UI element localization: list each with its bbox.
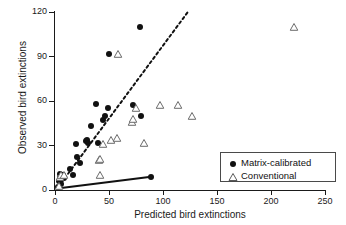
y-tick (49, 190, 54, 191)
data-point-matrix-calibrated (106, 51, 112, 57)
x-tick (55, 190, 56, 195)
y-tick (49, 12, 54, 13)
legend-box: Matrix-calibrated Conventional (220, 152, 336, 182)
data-point-conventional (96, 171, 105, 180)
legend-label-conventional: Conventional (241, 170, 296, 181)
data-point-conventional (289, 22, 298, 31)
data-point-matrix-calibrated (77, 160, 83, 166)
data-point-conventional (132, 104, 141, 113)
y-tick (49, 56, 54, 57)
data-point-matrix-calibrated (93, 101, 99, 107)
x-axis-line (54, 190, 326, 191)
data-point-conventional (55, 181, 64, 190)
y-tick (49, 101, 54, 102)
data-point-matrix-calibrated (102, 113, 108, 119)
data-point-matrix-calibrated (148, 174, 154, 180)
data-point-conventional (112, 134, 121, 143)
x-tick-label: 50 (89, 197, 129, 206)
data-point-matrix-calibrated (105, 105, 111, 111)
data-point-conventional (174, 101, 183, 110)
x-tick (109, 190, 110, 195)
scatter-plot-figure: 0306090120050100150200250 Predicted bird… (0, 0, 346, 225)
data-point-conventional (98, 140, 107, 149)
data-point-conventional (128, 114, 137, 123)
data-point-matrix-calibrated (85, 140, 91, 146)
filled-circle-icon (227, 156, 239, 168)
data-point-conventional (113, 49, 122, 58)
data-point-conventional (139, 138, 148, 147)
data-point-matrix-calibrated (138, 113, 144, 119)
x-tick (163, 190, 164, 195)
data-point-conventional (155, 101, 164, 110)
data-point-conventional (188, 111, 197, 120)
legend-entry-conventional[interactable]: Conventional (227, 168, 296, 182)
data-point-matrix-calibrated (88, 123, 94, 129)
x-tick (217, 190, 218, 195)
x-tick-label: 100 (143, 197, 183, 206)
y-tick (49, 145, 54, 146)
data-point-conventional (59, 171, 68, 180)
x-tick-label: 0 (35, 197, 75, 206)
y-axis-line (54, 11, 55, 191)
legend-label-matrix-calibrated: Matrix-calibrated (241, 157, 311, 168)
legend-entry-matrix-calibrated[interactable]: Matrix-calibrated (227, 155, 311, 169)
data-point-conventional (96, 154, 105, 163)
x-tick (325, 190, 326, 195)
x-tick-label: 200 (251, 197, 291, 206)
x-tick (271, 190, 272, 195)
x-axis-title: Predicted bird extinctions (55, 209, 325, 220)
x-tick-label: 250 (305, 197, 345, 206)
x-tick-label: 150 (197, 197, 237, 206)
y-axis-title: Observed bird extinctions (17, 8, 28, 188)
trendlines (0, 0, 346, 225)
open-triangle-icon (227, 169, 239, 181)
data-point-matrix-calibrated (70, 172, 76, 178)
data-point-matrix-calibrated (73, 141, 79, 147)
data-point-matrix-calibrated (137, 24, 143, 30)
